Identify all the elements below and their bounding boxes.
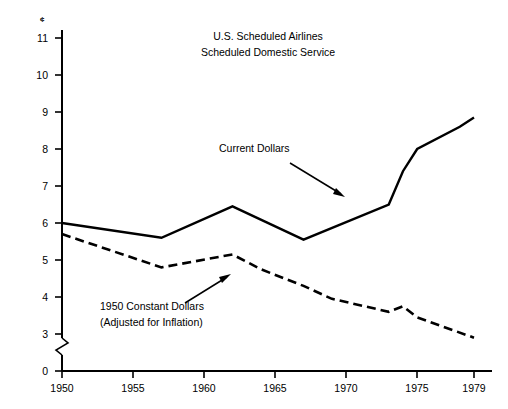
chart-title-line-2: Scheduled Domestic Service [201,46,335,58]
chart-container: ¢ 11 10 9 8 7 6 5 [0,0,508,409]
annotation-label-current-dollars: Current Dollars [219,142,290,154]
x-tick-label: 1955 [121,382,145,394]
y-tick-label: 3 [42,328,48,340]
annotation-current-dollars: Current Dollars [219,142,345,197]
series-current-dollars [62,118,474,240]
y-tick-label: 6 [42,217,48,229]
y-tick-label: 0 [42,365,48,377]
axis-break-icon [56,338,68,355]
x-tick-label: 1965 [263,382,287,394]
x-tick-labels: 1950 1955 1960 1965 1970 1975 1979 [50,382,486,394]
x-tick-label: 1960 [192,382,216,394]
y-tick-label: 8 [42,143,48,155]
y-tick-labels: 11 10 9 8 7 6 5 4 3 0 [36,32,48,377]
x-tick-label: 1970 [334,382,358,394]
y-tick-label: 11 [37,32,48,44]
annotation-arrow-line [290,163,341,194]
y-tick-label: 4 [42,291,48,303]
annotation-arrow-head [333,188,345,197]
annotation-arrow-line-2 [185,277,227,303]
y-tick-label: 9 [42,106,48,118]
annotation-constant-dollars: 1950 Constant Dollars (Adjusted for Infl… [100,274,231,328]
y-tick-label: 10 [36,69,48,81]
line-chart: ¢ 11 10 9 8 7 6 5 [0,0,508,409]
x-tick-marks [62,371,474,378]
x-tick-label: 1979 [462,382,486,394]
chart-title-line-1: U.S. Scheduled Airlines [213,30,323,42]
y-axis-unit-symbol: ¢ [40,15,45,24]
annotation-label-constant-dollars-line-2: (Adjusted for Inflation) [100,316,203,328]
y-tick-marks [55,38,62,371]
x-tick-label: 1975 [405,382,429,394]
y-tick-label: 7 [42,180,48,192]
x-tick-label: 1950 [50,382,74,394]
y-tick-label: 5 [42,254,48,266]
